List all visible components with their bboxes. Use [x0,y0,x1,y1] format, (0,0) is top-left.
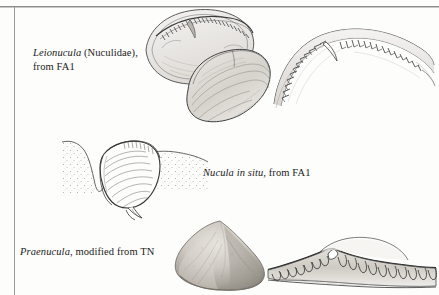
leionucula-valves-drawing [140,4,270,126]
caption-leionucula-line1: Leionucula (Nuculidae), [33,46,138,60]
caption-leionucula-line2: from FA1 [33,60,138,74]
caption-praenucula-genus: Praenucula [20,246,70,257]
praenucula-shell-photograph [172,218,272,292]
caption-praenucula: Praenucula, modified from TN [20,245,154,259]
caption-nucula: Nucula in situ, from FA1 [203,166,311,180]
praenucula-hinge-detail-drawing [266,232,438,292]
page-rule-left [14,7,15,295]
caption-leionucula: Leionucula (Nuculidae), from FA1 [33,46,138,74]
caption-leionucula-family: (Nuculidae), [81,47,138,58]
caption-praenucula-source: , modified from TN [70,246,154,257]
nucula-in-situ-drawing [62,128,208,220]
caption-nucula-source: , from FA1 [263,167,310,178]
leionucula-hinge-detail-drawing [268,18,436,110]
figure-plate: Leionucula (Nuculidae), from FA1 Nucula … [0,0,439,295]
caption-leionucula-genus: Leionucula [33,47,81,58]
caption-nucula-taxon: Nucula in situ [203,167,263,178]
